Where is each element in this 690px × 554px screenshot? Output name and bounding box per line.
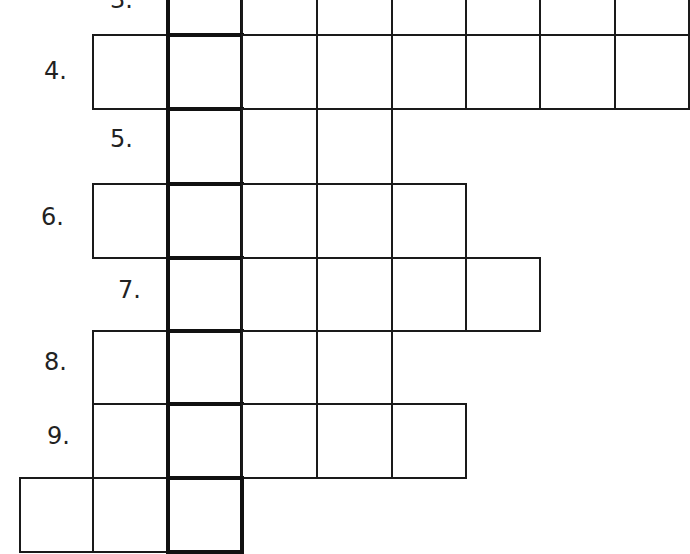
crossword-cell[interactable]: [19, 477, 94, 553]
crossword-cell[interactable]: [614, 0, 690, 36]
crossword-cell[interactable]: [316, 183, 393, 259]
crossword-cell[interactable]: [539, 0, 616, 36]
crossword-cell[interactable]: [465, 0, 541, 36]
crossword-cell[interactable]: [391, 34, 467, 110]
crossword-cell[interactable]: [167, 108, 243, 185]
crossword-cell[interactable]: [241, 330, 318, 405]
crossword-cell[interactable]: [391, 257, 467, 332]
crossword-cell[interactable]: [241, 257, 318, 332]
crossword-cell[interactable]: [241, 108, 318, 185]
clue-number-label: 9.: [47, 424, 70, 448]
crossword-cell[interactable]: [92, 403, 169, 479]
crossword-cell[interactable]: [316, 330, 393, 405]
crossword-cell[interactable]: [167, 477, 243, 553]
crossword-cell[interactable]: [167, 183, 243, 259]
crossword-cell[interactable]: [167, 330, 243, 405]
crossword-cell[interactable]: [316, 403, 393, 479]
crossword-cell[interactable]: [92, 183, 169, 259]
clue-number-label: 8.: [44, 350, 67, 374]
crossword-cell[interactable]: [391, 403, 467, 479]
crossword-cell[interactable]: [92, 330, 169, 405]
crossword-cell[interactable]: [539, 34, 616, 110]
crossword-cell[interactable]: [92, 34, 169, 110]
crossword-cell[interactable]: [614, 34, 690, 110]
clue-number-label: 6.: [41, 205, 64, 229]
crossword-cell[interactable]: [167, 0, 243, 36]
crossword-cell[interactable]: [167, 403, 243, 479]
crossword-cell[interactable]: [316, 257, 393, 332]
crossword-cell[interactable]: [316, 34, 393, 110]
crossword-cell[interactable]: [241, 403, 318, 479]
crossword-cell[interactable]: [167, 257, 243, 332]
crossword-cell[interactable]: [92, 477, 169, 553]
crossword-cell[interactable]: [167, 34, 243, 110]
clue-number-label: 5.: [110, 127, 133, 151]
crossword-cell[interactable]: [241, 34, 318, 110]
crossword-cell[interactable]: [465, 257, 541, 332]
crossword-cell[interactable]: [316, 0, 393, 36]
crossword-cell[interactable]: [391, 0, 467, 36]
clue-number-label: 7.: [118, 278, 141, 302]
crossword-cell[interactable]: [241, 0, 318, 36]
crossword-cell[interactable]: [316, 108, 393, 185]
crossword-cell[interactable]: [391, 183, 467, 259]
clue-number-label: 3.: [110, 0, 133, 12]
clue-number-label: 4.: [44, 59, 67, 83]
crossword-cell[interactable]: [241, 183, 318, 259]
crossword-cell[interactable]: [465, 34, 541, 110]
